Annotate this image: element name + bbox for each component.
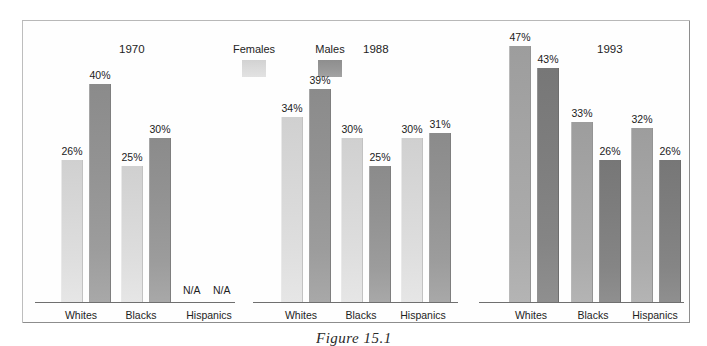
bar-value-1970-blacks-females: 25%: [112, 151, 152, 163]
bar-value-1988-whites-males: 39%: [300, 74, 340, 86]
panel-title-1993: 1993: [597, 43, 623, 55]
bar-1970-blacks-females: [121, 166, 143, 302]
bar-1988-whites-females: [281, 117, 303, 302]
bar-1993-blacks-males: [599, 160, 621, 302]
bar-1970-whites-females: [61, 160, 83, 302]
bar-value-1970-whites-females: 26%: [52, 145, 92, 157]
category-label-1970-hispanics: Hispanics: [169, 309, 249, 321]
bar-1993-hispanics-males: [659, 160, 681, 302]
bar-1993-whites-males: [537, 68, 559, 302]
bar-value-1988-blacks-males: 25%: [360, 151, 400, 163]
bar-1988-hispanics-males: [429, 133, 451, 302]
panel-title-1970: 1970: [119, 43, 145, 55]
axis-line-1970: [35, 302, 235, 303]
figure-caption: Figure 15.1: [316, 330, 392, 346]
bar-value-1993-blacks-females: 33%: [562, 107, 602, 119]
bar-1988-blacks-males: [369, 166, 391, 302]
bar-1988-hispanics-females: [401, 138, 423, 302]
na-label-1970-males: N/A: [213, 284, 231, 296]
bar-value-1993-hispanics-males: 26%: [650, 145, 690, 157]
bar-1970-whites-males: [89, 84, 111, 302]
legend-swatch-females-icon: [242, 60, 266, 77]
axis-line-1993: [479, 302, 684, 303]
bar-value-1993-blacks-males: 26%: [590, 145, 630, 157]
bar-1970-blacks-males: [149, 138, 171, 302]
axis-line-1988: [253, 302, 458, 303]
bar-1988-whites-males: [309, 89, 331, 302]
chart-legend: Females Males: [219, 43, 369, 85]
bar-value-1993-hispanics-females: 32%: [622, 113, 662, 125]
bar-value-1970-whites-males: 40%: [80, 69, 120, 81]
legend-label-males: Males: [301, 43, 359, 56]
na-label-1970-females: N/A: [183, 284, 201, 296]
figure-root: Females Males 1970 1988 1993 Whites26%40…: [0, 0, 707, 346]
bar-value-1988-hispanics-males: 31%: [420, 118, 460, 130]
panel-title-1988: 1988: [363, 43, 389, 55]
bar-value-1970-blacks-males: 30%: [140, 123, 180, 135]
bar-value-1988-whites-females: 34%: [272, 102, 312, 114]
bar-1993-whites-females: [509, 46, 531, 302]
legend-item-males: Males: [301, 43, 359, 77]
category-label-1988-hispanics: Hispanics: [383, 309, 463, 321]
chart-plot-area: Females Males 1970 1988 1993 Whites26%40…: [23, 21, 691, 324]
bar-value-1993-whites-females: 47%: [500, 31, 540, 43]
legend-label-females: Females: [219, 43, 289, 56]
figure-frame: Females Males 1970 1988 1993 Whites26%40…: [22, 20, 690, 323]
bar-value-1988-blacks-females: 30%: [332, 123, 372, 135]
category-label-1993-hispanics: Hispanics: [615, 309, 695, 321]
legend-item-females: Females: [219, 43, 289, 77]
bar-value-1993-whites-males: 43%: [528, 53, 568, 65]
